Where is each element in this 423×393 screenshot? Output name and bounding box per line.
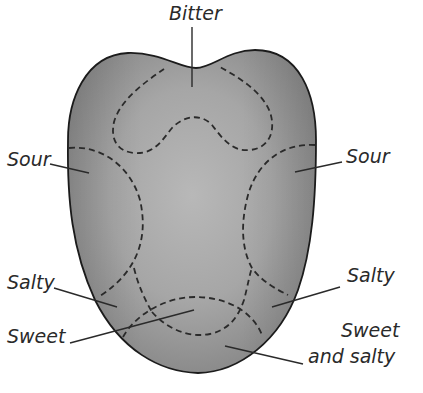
label-sweet-and-salty-line1: Sweet — [341, 321, 399, 340]
label-salty-right: Salty — [347, 266, 395, 285]
label-sweet-and-salty-line2: and salty — [308, 347, 395, 366]
tongue-side-shading — [68, 50, 316, 373]
label-sour-right: Sour — [346, 147, 390, 166]
label-bitter: Bitter — [169, 4, 222, 23]
label-sweet: Sweet — [7, 327, 65, 346]
label-sour-left: Sour — [7, 150, 51, 169]
label-salty-left: Salty — [7, 273, 55, 292]
